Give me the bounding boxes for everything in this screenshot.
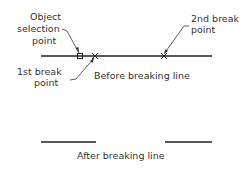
caption-after: After breaking line <box>77 150 165 161</box>
label-object-selection-1: Object <box>30 11 61 22</box>
caption-before: Before breaking line <box>94 70 190 81</box>
second-break-leader <box>164 26 189 54</box>
label-second-break-2: point <box>191 24 216 35</box>
arrow-icon <box>76 47 80 53</box>
break-line-diagram: Object selection point 2nd break point 1… <box>0 0 249 170</box>
label-first-break-1: 1st break <box>17 66 62 77</box>
label-first-break-2: point <box>34 77 59 88</box>
label-object-selection-2: selection <box>17 23 60 34</box>
label-second-break-1: 2nd break <box>191 13 240 24</box>
object-selection-leader <box>62 29 79 53</box>
label-object-selection-3: point <box>32 35 57 46</box>
